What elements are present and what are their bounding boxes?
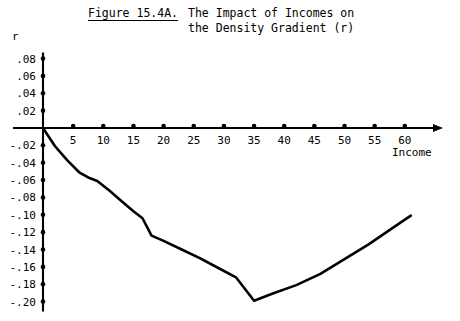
x-tick-dot bbox=[282, 124, 287, 129]
y-tick-label: .04 bbox=[16, 87, 36, 100]
x-tick-dot bbox=[403, 124, 408, 129]
y-tick-label: .02 bbox=[16, 105, 36, 118]
x-tick-label: 60 bbox=[398, 134, 411, 147]
x-tick-label: 50 bbox=[338, 134, 351, 147]
x-tick-label: 15 bbox=[127, 134, 140, 147]
y-tick-label: -.20 bbox=[10, 296, 37, 309]
figure-page: Figure 15.4A. The Impact of Incomes on t… bbox=[0, 0, 460, 321]
x-tick-dot bbox=[191, 124, 196, 129]
y-tick-label: -.06 bbox=[10, 174, 37, 187]
y-tick-dot bbox=[41, 282, 46, 287]
x-tick-label: 30 bbox=[217, 134, 230, 147]
x-tick-label: 55 bbox=[368, 134, 381, 147]
x-tick-label: 20 bbox=[157, 134, 170, 147]
y-tick-label: .06 bbox=[16, 70, 36, 83]
x-tick-dot bbox=[71, 124, 76, 129]
y-tick-dot bbox=[41, 247, 46, 252]
x-tick-label: 35 bbox=[247, 134, 260, 147]
x-tick-label: 25 bbox=[187, 134, 200, 147]
y-axis: .08.06.04.02-.02-.04-.06-.08-.10-.12-.14… bbox=[10, 53, 46, 312]
x-tick-dot bbox=[342, 124, 347, 129]
y-tick-dot bbox=[41, 160, 46, 165]
x-tick-dot bbox=[252, 124, 257, 129]
y-tick-dot bbox=[41, 91, 46, 96]
line-chart-plot: .08.06.04.02-.02-.04-.06-.08-.10-.12-.14… bbox=[0, 0, 460, 321]
y-tick-dot bbox=[41, 108, 46, 113]
x-axis-arrow-icon bbox=[433, 124, 443, 132]
y-tick-label: -.08 bbox=[10, 191, 37, 204]
y-tick-dot bbox=[41, 56, 46, 61]
x-tick-dot bbox=[131, 124, 136, 129]
x-tick-dot bbox=[101, 124, 106, 129]
y-tick-label: -.04 bbox=[10, 157, 37, 170]
y-tick-label: -.10 bbox=[10, 209, 37, 222]
y-tick-dot bbox=[41, 74, 46, 79]
x-tick-label: 45 bbox=[308, 134, 321, 147]
y-tick-label: .08 bbox=[16, 53, 36, 66]
y-tick-label: -.18 bbox=[10, 278, 37, 291]
x-tick-dot bbox=[222, 124, 227, 129]
y-tick-label: -.02 bbox=[10, 139, 37, 152]
y-tick-dot bbox=[41, 195, 46, 200]
y-tick-label: -.12 bbox=[10, 226, 37, 239]
y-tick-dot bbox=[41, 299, 46, 304]
y-tick-dot bbox=[41, 230, 46, 235]
x-tick-label: 10 bbox=[97, 134, 110, 147]
x-tick-label: 5 bbox=[70, 134, 77, 147]
y-tick-dot bbox=[41, 178, 46, 183]
data-series-group bbox=[43, 128, 411, 301]
x-tick-dot bbox=[312, 124, 317, 129]
data-curve-line bbox=[43, 128, 411, 301]
x-tick-dot bbox=[372, 124, 377, 129]
y-tick-dot bbox=[41, 265, 46, 270]
y-tick-dot bbox=[41, 143, 46, 148]
y-tick-label: -.14 bbox=[10, 244, 37, 257]
x-tick-label: 40 bbox=[278, 134, 291, 147]
x-axis: 51015202530354045505560 bbox=[13, 124, 443, 147]
y-tick-dot bbox=[41, 213, 46, 218]
x-tick-dot bbox=[161, 124, 166, 129]
y-tick-label: -.16 bbox=[10, 261, 37, 274]
